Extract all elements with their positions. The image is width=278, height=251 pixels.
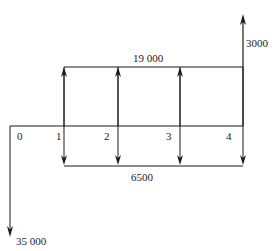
inflow-label: 19 000 (133, 52, 164, 64)
cash-flow-diagram: 0 1 2 3 4 35 000 19 000 6500 (0, 0, 278, 251)
initial-outflow-arrow (7, 126, 13, 237)
salvage-inflow-label: 3000 (246, 37, 269, 49)
salvage-inflow-arrow (240, 14, 246, 126)
period-label-2: 2 (104, 130, 110, 142)
outflow-arrow-2 (115, 67, 121, 165)
outflow-label: 6500 (131, 171, 154, 183)
initial-outflow-label: 35 000 (16, 235, 47, 247)
period-label-4: 4 (226, 130, 232, 142)
outflow-arrow-1 (61, 67, 67, 165)
period-label-0: 0 (17, 130, 23, 142)
period-label-1: 1 (56, 130, 62, 142)
outflow-arrow-3 (177, 67, 183, 165)
period-label-3: 3 (166, 130, 172, 142)
